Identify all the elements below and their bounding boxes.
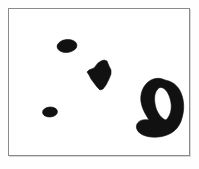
figure-frame: [8, 8, 190, 156]
figure-root: [0, 0, 199, 169]
shape-canvas: [9, 9, 189, 155]
